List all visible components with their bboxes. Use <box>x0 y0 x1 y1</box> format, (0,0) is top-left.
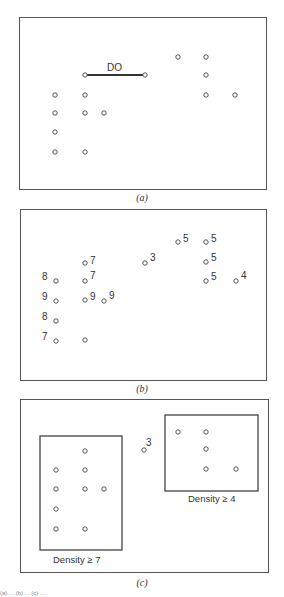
caption-b: (b) <box>0 383 284 394</box>
caption-c: (c) <box>0 577 284 588</box>
panel-b-frame <box>20 209 267 381</box>
figure-footnote: (a) ... (b) ... (c) ... <box>0 590 284 597</box>
panel-c-frame <box>20 399 269 573</box>
caption-a: (a) <box>0 192 284 203</box>
panel-a-frame <box>19 17 267 190</box>
